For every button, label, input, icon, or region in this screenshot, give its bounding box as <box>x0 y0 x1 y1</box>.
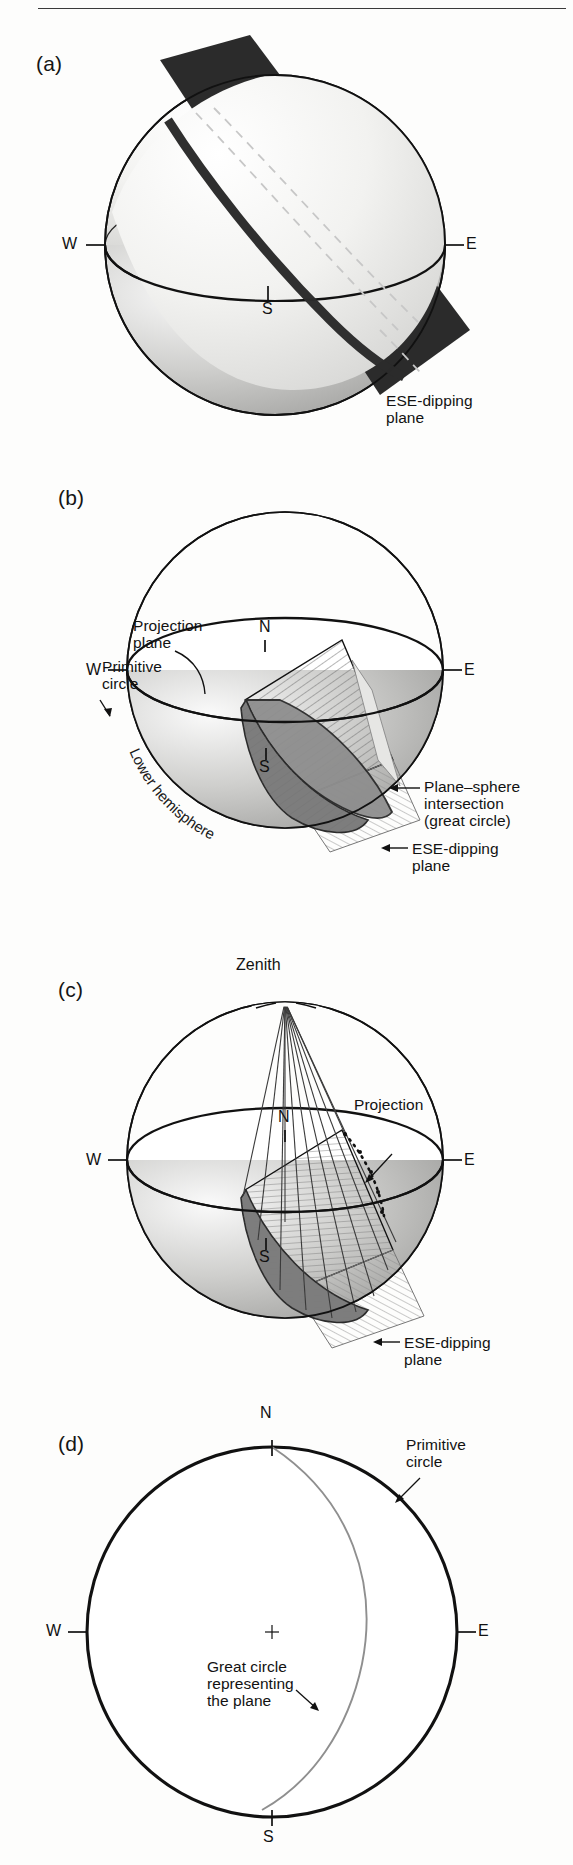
panel-b-primitive-circle-label-line2: circle <box>102 675 138 692</box>
figure-root: (a) <box>0 0 573 1865</box>
panel-c-zenith-label: Zenith <box>236 956 281 974</box>
panel-b-ese-dipping-plane-label-line1: ESE-dipping <box>412 840 499 857</box>
panel-a-ese-dipping-plane-label-line1: ESE-dipping <box>386 392 473 409</box>
panel-d-great-circle-label-line2: representing <box>207 1675 294 1692</box>
panel-d-great-circle-label-line3: the plane <box>207 1692 271 1709</box>
panel-a-cardinal-west: W <box>62 235 77 253</box>
panel-d-cardinal-north: N <box>260 1404 272 1422</box>
panel-d-cardinal-west: W <box>46 1622 61 1640</box>
panel-a-cardinal-east: E <box>466 235 477 253</box>
panel-c-cardinal-east: E <box>464 1151 475 1169</box>
panel-a-ese-dipping-plane-label-line2: plane <box>386 409 424 426</box>
panel-b-graphics: Lower hemisphere <box>100 512 462 858</box>
figure-graphics: Lower hemisphere <box>0 0 573 1865</box>
panel-b-label: (b) <box>58 486 84 510</box>
panel-c-cardinal-west: W <box>86 1151 101 1169</box>
panel-b-projection-plane-label-line1: Projection <box>133 617 202 634</box>
panel-d-graphics <box>68 1440 476 1826</box>
panel-a-graphics <box>86 35 470 415</box>
panel-d-cardinal-east: E <box>478 1622 489 1640</box>
panel-b-ese-dipping-plane-label-line2: plane <box>412 857 450 874</box>
panel-c-ese-dipping-plane-label-line2: plane <box>404 1351 442 1368</box>
panel-b-primitive-circle-label-line1: Primitive <box>102 658 162 675</box>
panel-b-cardinal-north: N <box>259 618 271 636</box>
panel-c-projection-label: Projection <box>354 1096 423 1113</box>
panel-c-graphics <box>108 1002 462 1348</box>
panel-c-ese-dipping-plane-label-line1: ESE-dipping <box>404 1334 491 1351</box>
panel-b-cardinal-east: E <box>464 661 475 679</box>
panel-b-plane-sphere-intersection-line1: Plane–sphere <box>424 778 520 795</box>
panel-c-cardinal-south: S <box>259 1248 270 1266</box>
panel-b-cardinal-west: W <box>86 661 101 679</box>
panel-d-primitive-circle-label-line1: Primitive <box>406 1436 466 1453</box>
panel-b-plane-sphere-intersection-line2: intersection <box>424 795 504 812</box>
panel-b-plane-sphere-intersection-line3: (great circle) <box>424 812 511 829</box>
panel-d-primitive-circle-label-line2: circle <box>406 1453 442 1470</box>
panel-a-cardinal-south: S <box>262 300 273 318</box>
panel-d-great-circle-label-line1: Great circle <box>207 1658 287 1675</box>
panel-d-label: (d) <box>58 1432 84 1456</box>
panel-c-cardinal-north: N <box>278 1108 290 1126</box>
panel-b-projection-plane-label-line2: plane <box>133 634 171 651</box>
panel-b-cardinal-south: S <box>259 758 270 776</box>
panel-c-label: (c) <box>58 978 83 1002</box>
panel-d-cardinal-south: S <box>263 1828 274 1846</box>
